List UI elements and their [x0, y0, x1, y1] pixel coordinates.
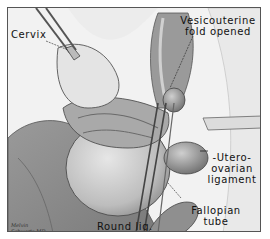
anatomical-illustration — [8, 8, 261, 232]
label-vesicouterine-line2: fold opened — [178, 26, 258, 37]
label-uteroovarian-line3: ligament — [204, 174, 260, 185]
label-fallopian-tube: Fallopian tube — [188, 205, 244, 227]
illustration-frame: Cervix Vesicouterine fold opened -Utero-… — [7, 7, 261, 232]
label-round-ligament: Round lig. — [97, 221, 153, 232]
label-uteroovarian-line1: -Utero- — [204, 152, 260, 163]
signature-line2: Schwartz MD — [11, 228, 45, 232]
label-uteroovarian-ligament: -Utero- ovarian ligament — [204, 152, 260, 185]
label-cervix: Cervix — [11, 29, 46, 40]
label-vesicouterine-line1: Vesicouterine — [178, 15, 258, 26]
label-fallopian-line1: Fallopian — [188, 205, 244, 216]
label-uteroovarian-line2: ovarian — [204, 163, 260, 174]
label-fallopian-line2: tube — [188, 216, 244, 227]
artist-signature: Melvin Schwartz MD — [11, 222, 45, 232]
label-vesicouterine-fold: Vesicouterine fold opened — [178, 15, 258, 37]
